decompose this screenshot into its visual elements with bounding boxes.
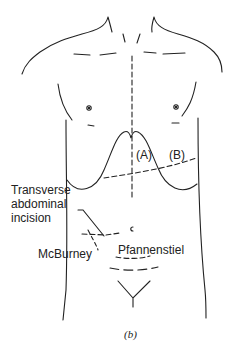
left-chest-side bbox=[58, 84, 72, 120]
left-shoulder-outline bbox=[22, 17, 112, 74]
label-b: (B) bbox=[169, 149, 185, 162]
right-shoulder-outline bbox=[152, 17, 222, 72]
neck-line-left bbox=[123, 34, 125, 42]
label-pfannenstiel: Pfannenstiel bbox=[118, 244, 184, 257]
lower-abdomen-line bbox=[110, 267, 158, 270]
right-clavicle bbox=[144, 52, 185, 54]
transverse-leader bbox=[78, 210, 104, 236]
label-transverse-2: abdominal bbox=[11, 198, 66, 211]
label-a: (A) bbox=[136, 149, 152, 162]
groin-lines bbox=[118, 281, 150, 307]
left-body-side bbox=[63, 120, 67, 320]
transverse-incision bbox=[82, 233, 120, 235]
right-chest-side bbox=[182, 82, 196, 116]
umbilicus-icon bbox=[131, 227, 133, 231]
torso-incision-diagram bbox=[0, 0, 240, 347]
label-mcburney: McBurney bbox=[38, 248, 92, 261]
neck-line-right bbox=[137, 34, 140, 43]
figure-caption: (b) bbox=[124, 328, 137, 340]
label-transverse-1: Transverse bbox=[11, 184, 71, 197]
label-transverse-3: incision bbox=[11, 212, 51, 225]
right-body-side bbox=[198, 118, 206, 318]
left-clavicle bbox=[74, 53, 116, 55]
